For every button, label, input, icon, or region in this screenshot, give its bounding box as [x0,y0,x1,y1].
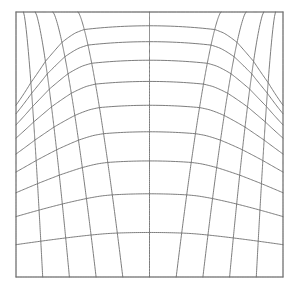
mesh-grid-figure: Curvilinear deformed mesh grid A square … [0,0,298,297]
figure-root: Curvilinear deformed mesh grid A square … [0,0,298,297]
